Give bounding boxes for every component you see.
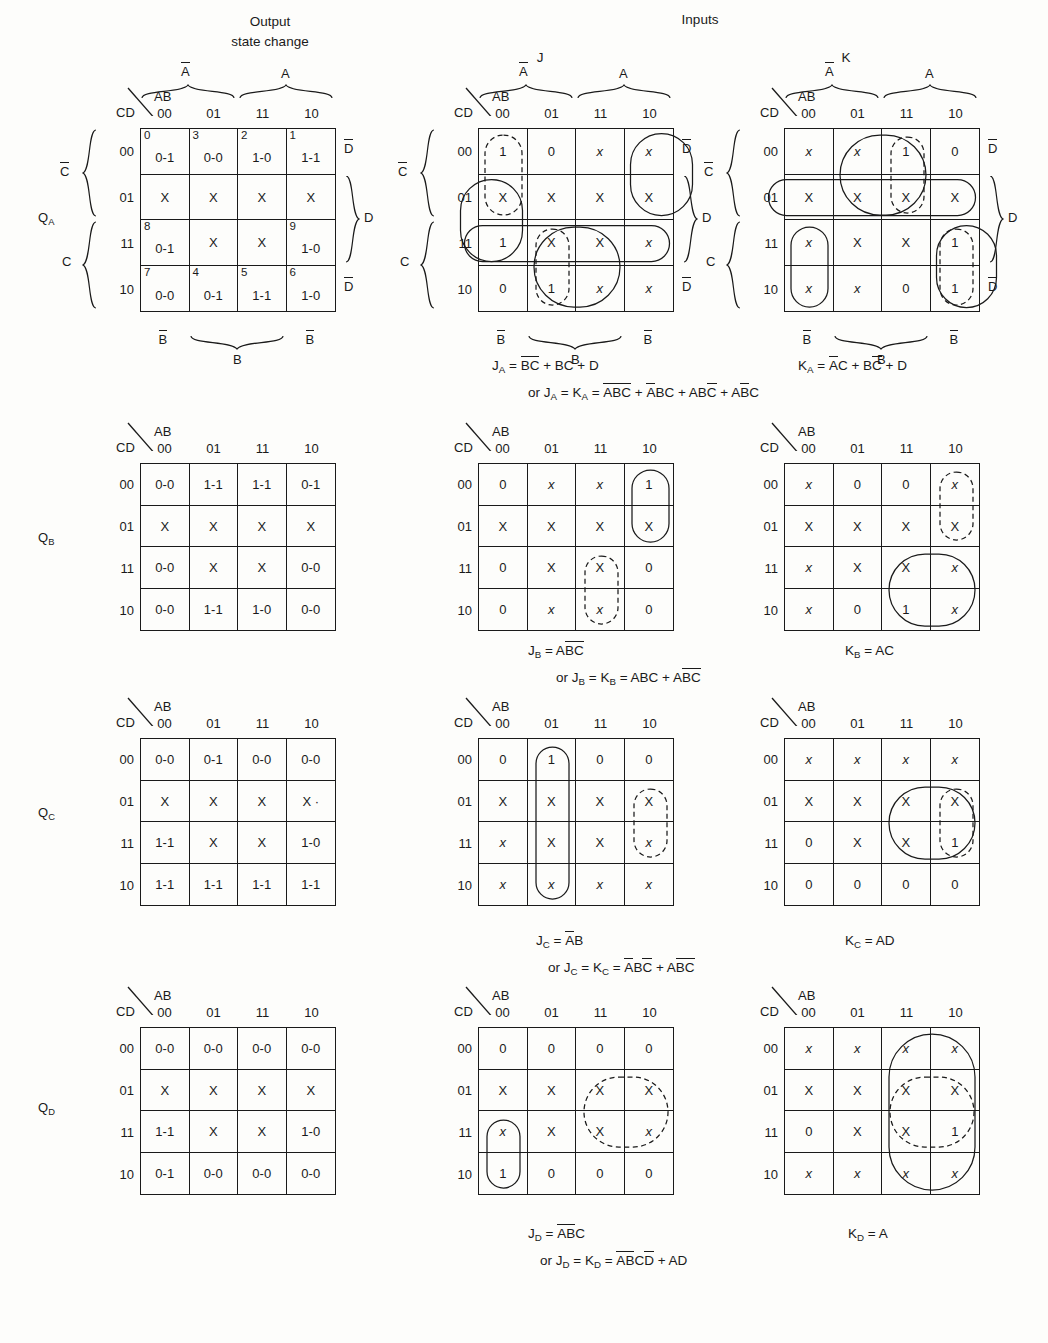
kmap-cell: 0-0 [141,589,190,631]
cell-value: X [834,518,882,533]
kmap-cell: X [882,220,931,266]
equation-kc: KC = AD [845,933,894,950]
kmap-group-loop-dashed [939,228,976,308]
kmap-cell: x [834,739,883,781]
kmap-cell: 1-1 [238,864,287,906]
cell-value: 1-1 [190,602,238,617]
kmap-group-loop-solid [464,225,673,265]
kmap-cell: X [834,547,883,589]
cell-value: x [785,560,833,575]
equation-kd: KD = A [848,1226,888,1243]
kmap-cell: x [785,589,834,631]
kmap-group-loop-solid [486,1119,523,1191]
row-header: 00 [754,128,778,174]
cell-value: x [785,477,833,492]
kmap-row-headers: 00011110 [448,1027,472,1195]
cell-value: 0-0 [190,1041,238,1056]
kmap-row-headers: 00011110 [110,738,134,906]
kmap-cell: X [528,1070,577,1112]
axis-label-a: A [925,66,934,81]
cell-value: X [141,189,189,204]
kmap-cell: 0 [479,1028,528,1070]
axis-label-ab: AB [154,89,171,104]
cell-value: 0 [479,281,527,296]
cell-value: X [528,560,576,575]
cell-value: 0 [528,144,576,159]
row-header: 11 [110,220,134,266]
column-header: 11 [882,441,931,456]
kmap-cell: X [190,220,239,266]
column-header: 00 [478,441,527,456]
column-header: 11 [238,441,287,456]
cell-value: 1-0 [238,150,286,165]
cell-value: 0-1 [141,1166,189,1181]
column-header: 10 [625,441,674,456]
row-header: 11 [110,1111,134,1153]
cell-value: 0-0 [238,1041,286,1056]
axis-label-d-bar-bottom: D [682,279,691,294]
kmap-cell: 0-0 [238,1028,287,1070]
kmap-cell: x [625,864,674,906]
column-header: 10 [287,716,336,731]
kmap-group-loop-solid [630,133,696,219]
cell-value: 0 [785,1124,833,1139]
axis-label-a-bar: A [181,64,190,79]
axis-label-cd: CD [760,715,779,730]
cell-value: X [238,518,286,533]
row-header: 11 [448,547,472,589]
row-label-qa: QA [38,210,54,227]
kmap-column-headers: 00011110 [784,716,980,731]
axis-label-b: B [233,352,242,367]
kmap-cell: 0 [576,1153,625,1195]
kmap-cell: 1-1 [287,864,336,906]
cell-value: x [576,144,624,159]
kmap-cell: x [576,864,625,906]
column-header: 00 [140,441,189,456]
column-header: 00 [784,106,833,121]
cell-value: x [528,602,576,617]
kmap-row-headers: 00011110 [448,463,472,631]
kmap-row-headers: 00011110 [754,463,778,631]
cell-value: 1-1 [287,150,336,165]
equation-jc: JC = AB [536,933,583,950]
cell-value: x [479,877,527,892]
cell-value: 0 [834,877,882,892]
cell-value: X [238,560,286,575]
cell-value: X [576,518,624,533]
kmap-cell: 1-0 [238,589,287,631]
axis-label-d-bar-top: D [988,141,997,156]
cell-value: X [238,235,286,250]
cell-value: 0 [882,281,930,296]
axis-label-ab: AB [492,988,509,1003]
row-header: 01 [110,505,134,547]
axis-label-ab: AB [154,988,171,1003]
row-header: 10 [754,1153,778,1195]
axis-label-c: C [400,254,409,269]
axis-label-cd: CD [116,1004,135,1019]
kmap-cell: X [287,1070,336,1112]
cell-value: 0-1 [190,752,238,767]
kmap-cell: X [479,506,528,548]
cell-value: x [834,1041,882,1056]
kmap-cell: 0-0 [141,739,190,781]
kmap-cell: X [528,547,577,589]
cell-value: 0 [576,1166,624,1181]
kmap-cell: 70-0 [141,266,190,312]
equation-jb: JB = ABC [528,643,584,660]
equation-jd: JD = ABC [528,1226,585,1243]
cell-value: X [141,793,189,808]
kmap-cell: 0 [479,464,528,506]
kmap-row-headers: 00011110 [754,128,778,312]
kmap-cell: X [190,547,239,589]
kmap-group-loop-dashed [584,555,621,627]
kmap-cell: 1-0 [287,1111,336,1153]
axis-label-a-bar: A [825,64,834,79]
cell-value: 0 [576,1041,624,1056]
column-header: 11 [882,1005,931,1020]
kmap-cell: X [141,781,190,823]
axis-label-ab: AB [154,424,171,439]
column-header: 01 [833,441,882,456]
kmap-group-loop-solid [768,179,979,219]
kmap-cell: X [479,781,528,823]
axis-label-c: C [62,254,71,269]
